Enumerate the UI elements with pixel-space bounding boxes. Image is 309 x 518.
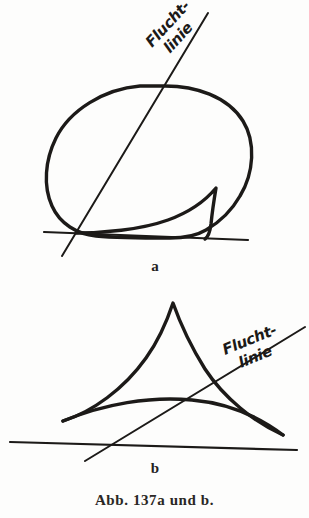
figure-a-group: Flucht- linie (44, 0, 252, 256)
figure-b-sub-label: b (135, 460, 175, 477)
figure-b-group: Flucht- linie (10, 303, 305, 461)
cusp-spike-a (76, 188, 216, 239)
plate-caption: Abb. 137a und b. (0, 492, 309, 509)
figure-a-sub-label: a (135, 258, 175, 275)
blob-outline-a (46, 86, 251, 238)
vanishing-line-b (85, 327, 305, 461)
figure-plate: Flucht- linie Flucht- linie a b Abb. 137… (0, 0, 309, 518)
ground-line-b (10, 442, 297, 450)
vanishing-line-a (62, 13, 208, 256)
flucht-linie-label-b: Flucht- linie (220, 321, 286, 376)
